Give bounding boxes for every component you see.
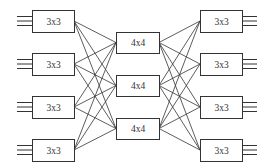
switch-box-label: 3x3 xyxy=(46,103,61,113)
link-line xyxy=(74,43,116,65)
switch-box-label: 4x4 xyxy=(131,38,146,48)
egress-switch-box: 3x3 xyxy=(201,54,243,76)
ingress-switch-box: 3x3 xyxy=(33,11,75,33)
link-line xyxy=(159,21,200,43)
link-line xyxy=(159,21,200,129)
switch-box-label: 3x3 xyxy=(214,17,229,27)
switch-box-label: 3x3 xyxy=(214,146,229,156)
link-line xyxy=(74,43,116,151)
link-line xyxy=(159,107,200,129)
middle-switch-box: 4x4 xyxy=(117,119,160,140)
link-line xyxy=(74,21,116,43)
switch-box-label: 4x4 xyxy=(131,124,146,134)
switch-boxes: 3x33x33x33x34x44x44x43x33x33x33x3 xyxy=(33,11,243,162)
switch-box-label: 3x3 xyxy=(214,103,229,113)
switch-box-label: 3x3 xyxy=(46,60,61,70)
link-line xyxy=(159,129,200,151)
ingress-switch-box: 3x3 xyxy=(33,97,75,119)
egress-switch-box: 3x3 xyxy=(201,11,243,33)
ingress-switch-box: 3x3 xyxy=(33,140,75,162)
ingress-switch-box: 3x3 xyxy=(33,54,75,76)
switch-box-label: 3x3 xyxy=(214,60,229,70)
link-line xyxy=(74,129,116,151)
egress-switch-box: 3x3 xyxy=(201,140,243,162)
middle-switch-box: 4x4 xyxy=(117,76,160,97)
clos-network-diagram: 3x33x33x33x34x44x44x43x33x33x33x3 xyxy=(0,0,274,168)
switch-box-label: 3x3 xyxy=(46,17,61,27)
switch-box-label: 3x3 xyxy=(46,146,61,156)
middle-switch-box: 4x4 xyxy=(117,33,160,54)
switch-box-label: 4x4 xyxy=(131,81,146,91)
egress-switch-box: 3x3 xyxy=(201,97,243,119)
